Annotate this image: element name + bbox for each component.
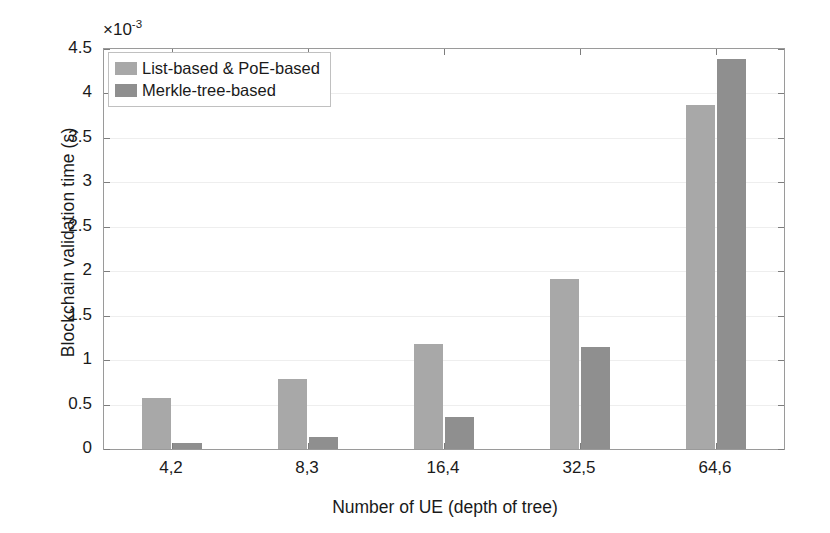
y-axis-tick-mark bbox=[778, 182, 784, 183]
plot-area bbox=[103, 48, 785, 450]
y-axis-tick-mark bbox=[104, 405, 110, 406]
y-axis-tick-mark bbox=[104, 138, 110, 139]
x-axis-title: Number of UE (depth of tree) bbox=[100, 497, 790, 518]
y-gridline bbox=[104, 271, 784, 272]
y-axis-tick-label: 2 bbox=[32, 260, 92, 280]
bar-1-1 bbox=[309, 437, 338, 449]
y-gridline bbox=[104, 405, 784, 406]
legend-item-0[interactable]: List-based & PoE-based bbox=[115, 57, 320, 79]
bar-2-1 bbox=[445, 417, 474, 449]
x-axis-tick-label: 4,2 bbox=[111, 458, 231, 478]
y-gridline bbox=[104, 227, 784, 228]
x-axis-tick-mark bbox=[444, 49, 445, 55]
y-axis-tick-label: 4 bbox=[32, 82, 92, 102]
y-axis-tick-label: 3 bbox=[32, 171, 92, 191]
x-axis-tick-mark bbox=[580, 49, 581, 55]
y-axis-tick-label: 4.5 bbox=[32, 38, 92, 58]
bar-4-1 bbox=[717, 59, 746, 449]
y-axis-tick-label: 0 bbox=[32, 438, 92, 458]
legend-swatch-icon bbox=[115, 84, 137, 97]
y-gridline bbox=[104, 138, 784, 139]
x-axis-tick-mark bbox=[580, 443, 581, 449]
y-axis-tick-mark bbox=[778, 360, 784, 361]
x-axis-tick-label: 32,5 bbox=[519, 458, 639, 478]
y-axis-tick-mark bbox=[104, 227, 110, 228]
x-axis-tick-label: 64,6 bbox=[655, 458, 775, 478]
y-axis-tick-mark bbox=[104, 360, 110, 361]
x-axis-tick-mark bbox=[308, 443, 309, 449]
y-axis-tick-label: 2.5 bbox=[32, 216, 92, 236]
y-axis-tick-mark bbox=[104, 182, 110, 183]
x-axis-tick-mark bbox=[716, 49, 717, 55]
bar-2-0 bbox=[414, 344, 443, 449]
y-axis-tick-mark bbox=[778, 227, 784, 228]
y-axis-tick-label: 1 bbox=[32, 349, 92, 369]
legend-label: Merkle-tree-based bbox=[142, 81, 276, 100]
y-axis-tick-mark bbox=[778, 316, 784, 317]
bar-1-0 bbox=[278, 379, 307, 449]
y-axis-tick-mark bbox=[778, 138, 784, 139]
y-axis-tick-mark bbox=[778, 93, 784, 94]
y-axis-tick-label: 1.5 bbox=[32, 305, 92, 325]
y-axis-exponent-base: ×10 bbox=[103, 20, 132, 39]
y-axis-tick-mark bbox=[104, 49, 110, 50]
bar-0-0 bbox=[142, 398, 171, 449]
chart-legend: List-based & PoE-basedMerkle-tree-based bbox=[108, 52, 331, 107]
y-axis-tick-mark bbox=[104, 449, 110, 450]
y-axis-tick-mark bbox=[778, 449, 784, 450]
y-axis-exponent-power: -3 bbox=[132, 18, 142, 30]
bar-0-1 bbox=[173, 443, 202, 449]
x-axis-tick-mark bbox=[716, 443, 717, 449]
y-axis-tick-mark bbox=[104, 271, 110, 272]
x-axis-tick-label: 8,3 bbox=[247, 458, 367, 478]
x-axis-tick-label: 16,4 bbox=[383, 458, 503, 478]
legend-item-1[interactable]: Merkle-tree-based bbox=[115, 79, 320, 101]
x-axis-tick-mark bbox=[444, 443, 445, 449]
y-axis-tick-mark bbox=[104, 316, 110, 317]
y-axis-tick-label: 0.5 bbox=[32, 394, 92, 414]
y-axis-tick-mark bbox=[778, 405, 784, 406]
bar-chart-figure: Blockchain validation time (s) ×10-3 00.… bbox=[0, 0, 830, 533]
y-axis-tick-mark bbox=[778, 271, 784, 272]
legend-swatch-icon bbox=[115, 62, 137, 75]
y-axis-tick-label: 3.5 bbox=[32, 127, 92, 147]
y-axis-title: Blockchain validation time (s) bbox=[58, 53, 79, 433]
bar-3-1 bbox=[581, 347, 610, 449]
x-axis-tick-mark bbox=[172, 443, 173, 449]
y-gridline bbox=[104, 316, 784, 317]
y-axis-exponent-label: ×10-3 bbox=[103, 18, 142, 40]
y-axis-tick-mark bbox=[778, 49, 784, 50]
y-gridline bbox=[104, 360, 784, 361]
legend-label: List-based & PoE-based bbox=[142, 59, 320, 78]
y-gridline bbox=[104, 182, 784, 183]
bar-4-0 bbox=[686, 105, 715, 449]
bar-3-0 bbox=[550, 279, 579, 449]
